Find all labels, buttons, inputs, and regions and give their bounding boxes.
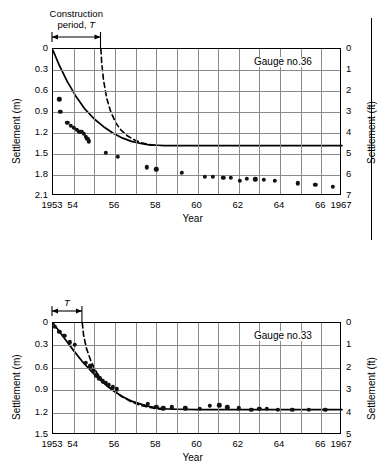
gridline-vertical (156, 323, 157, 433)
x-axis-tick: 64 (257, 200, 301, 210)
x-axis-tick: 54 (51, 439, 95, 449)
gauge-label-36: Gauge no.36 (253, 57, 313, 67)
arrowhead-icon (52, 34, 58, 39)
gridline-vertical (136, 323, 137, 433)
gridline-vertical (198, 323, 199, 433)
x-axis-tick: 60 (175, 200, 219, 210)
gauge-label-33: Gauge no.33 (253, 331, 313, 341)
y-axis-tick-left: 1.8 (10, 169, 48, 179)
y-axis-title-right-33: Settlement (ft) (367, 357, 377, 420)
x-axis-tick: 64 (257, 439, 301, 449)
x-axis-tick: 56 (92, 200, 136, 210)
x-axis-tick: 54 (51, 200, 95, 210)
gridline-horizontal (53, 413, 340, 414)
y-axis-tick-right: 5 (346, 148, 366, 158)
y-axis-tick-left: 0.3 (10, 339, 48, 349)
chart-panel-gauge-36: Construction period, T Gauge no.36 Settl… (0, 0, 388, 210)
gridline-horizontal (53, 154, 340, 155)
y-axis-tick-left: 0.6 (10, 362, 48, 372)
x-axis-tick: 56 (92, 439, 136, 449)
gridline-horizontal (53, 91, 340, 92)
gridline-vertical (177, 323, 178, 433)
gridline-vertical (218, 323, 219, 433)
y-axis-tick-right: 1 (346, 339, 366, 349)
y-axis-tick-left: 0.9 (10, 384, 48, 394)
arrowhead-icon (76, 308, 82, 313)
y-axis-tick-right: 4 (346, 407, 366, 417)
x-axis-tick: 1967 (319, 200, 363, 210)
y-axis-tick-left: 0.3 (10, 64, 48, 74)
y-axis-tick-right: 3 (346, 106, 366, 116)
y-axis-tick-left: 1.2 (10, 127, 48, 137)
y-axis-tick-left: 1.5 (10, 148, 48, 158)
gridline-vertical (239, 323, 240, 433)
gridline-vertical (94, 323, 95, 433)
x-axis-tick: 62 (216, 439, 260, 449)
y-axis-tick-left: 0 (10, 317, 48, 327)
gridline-horizontal (53, 70, 340, 71)
y-axis-tick-left: 1.2 (10, 407, 48, 417)
x-axis-tick: 58 (133, 200, 177, 210)
gridline-vertical (321, 323, 322, 433)
gridline-vertical (115, 323, 116, 433)
plot-frame-gauge-36 (52, 48, 341, 195)
y-axis-tick-left: 0.6 (10, 85, 48, 95)
y-axis-tick-left: 0 (10, 43, 48, 53)
x-axis-tick: 1967 (319, 439, 363, 449)
chart-panel-gauge-33: T Gauge no.33 Settlement (m) Settlement … (0, 210, 388, 404)
gridline-horizontal (53, 175, 340, 176)
gridline-horizontal (53, 368, 340, 369)
y-axis-tick-right: 2 (346, 362, 366, 372)
y-axis-tick-right: 1 (346, 64, 366, 74)
y-axis-tick-right: 0 (346, 43, 366, 53)
y-axis-tick-right: 3 (346, 384, 366, 394)
x-axis-tick: 58 (133, 439, 177, 449)
x-axis-tick: 62 (216, 200, 260, 210)
y-axis-tick-right: 6 (346, 169, 366, 179)
y-axis-tick-right: 0 (346, 317, 366, 327)
gridline-vertical (74, 323, 75, 433)
gridline-horizontal (53, 390, 340, 391)
page-margin-rule (371, 18, 372, 240)
y-axis-tick-left: 0.9 (10, 106, 48, 116)
arrowhead-icon (52, 308, 58, 313)
gridline-horizontal (53, 112, 340, 113)
gridline-horizontal (53, 133, 340, 134)
y-axis-tick-right: 2 (346, 85, 366, 95)
x-axis-title-33: Year (183, 453, 203, 463)
x-axis-tick: 60 (175, 439, 219, 449)
gridline-horizontal (53, 345, 340, 346)
arrowhead-icon (95, 34, 101, 39)
y-axis-tick-right: 4 (346, 127, 366, 137)
